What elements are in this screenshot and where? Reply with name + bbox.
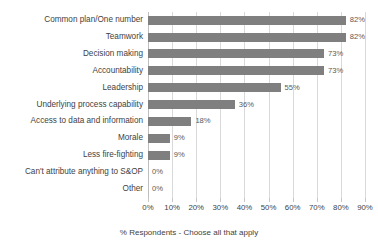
x-tick-label: 60% <box>285 203 301 213</box>
plot-area: 82%82%73%73%55%36%18%9%9%0%0% <box>148 12 365 198</box>
bar <box>148 83 281 92</box>
bar <box>148 16 346 25</box>
tick-mark-40% <box>244 198 245 202</box>
tick-mark-10% <box>172 198 173 202</box>
tick-mark-20% <box>196 198 197 202</box>
bar-value-label: 18% <box>191 113 210 130</box>
x-axis-title: % Respondents - Choose all that apply <box>0 228 378 237</box>
category-label: Common plan/One number <box>0 12 143 29</box>
category-label: Leadership <box>0 80 143 97</box>
bar <box>148 117 191 126</box>
bar-value-label: 9% <box>170 130 185 147</box>
bar <box>148 66 324 75</box>
bar <box>148 49 324 58</box>
bar-value-label: 73% <box>324 46 343 63</box>
tick-mark-60% <box>293 198 294 202</box>
bar-value-label: 0% <box>148 181 163 198</box>
bar-value-label: 82% <box>346 29 365 46</box>
bar-row: 9% <box>148 147 365 164</box>
x-tick-label: 70% <box>309 203 325 213</box>
category-label: Access to data and information <box>0 113 143 130</box>
bar-row: 82% <box>148 29 365 46</box>
bar-value-label: 36% <box>235 97 254 114</box>
bar-value-label: 55% <box>281 80 300 97</box>
bar <box>148 33 346 42</box>
tick-mark-70% <box>317 198 318 202</box>
tick-mark-0% <box>148 198 149 202</box>
x-tick-label: 90% <box>357 203 373 213</box>
bar-row: 0% <box>148 164 365 181</box>
category-label: Other <box>0 181 143 198</box>
x-tick-label: 20% <box>188 203 204 213</box>
bar-row: 73% <box>148 63 365 80</box>
category-label: Morale <box>0 130 143 147</box>
bar-value-label: 9% <box>170 147 185 164</box>
bar-row: 73% <box>148 46 365 63</box>
tick-mark-50% <box>269 198 270 202</box>
x-tick-label: 0% <box>142 203 153 213</box>
tick-mark-30% <box>220 198 221 202</box>
category-label: Teamwork <box>0 29 143 46</box>
bar-row: 36% <box>148 97 365 114</box>
category-label: Decision making <box>0 46 143 63</box>
category-label: Less fire-fighting <box>0 147 143 164</box>
bar-value-label: 82% <box>346 12 365 29</box>
x-tick-label: 10% <box>164 203 180 213</box>
bar <box>148 151 170 160</box>
x-tick-label: 30% <box>213 203 229 213</box>
tick-mark-80% <box>341 198 342 202</box>
bar-chart: 82%82%73%73%55%36%18%9%9%0%0% Common pla… <box>0 0 378 248</box>
bar-row: 18% <box>148 113 365 130</box>
category-label: Accountability <box>0 63 143 80</box>
category-label: Underlying process capability <box>0 97 143 114</box>
bar-value-label: 73% <box>324 63 343 80</box>
bar <box>148 134 170 143</box>
bar-row: 55% <box>148 80 365 97</box>
x-tick-label: 80% <box>333 203 349 213</box>
category-label: Can't attribute anything to S&OP <box>0 164 143 181</box>
gridline-90% <box>365 12 366 198</box>
bar-row: 0% <box>148 181 365 198</box>
bar-value-label: 0% <box>148 164 163 181</box>
x-tick-label: 40% <box>237 203 253 213</box>
bar-row: 9% <box>148 130 365 147</box>
x-tick-label: 50% <box>261 203 277 213</box>
bar <box>148 100 235 109</box>
bar-row: 82% <box>148 12 365 29</box>
tick-mark-90% <box>365 198 366 202</box>
